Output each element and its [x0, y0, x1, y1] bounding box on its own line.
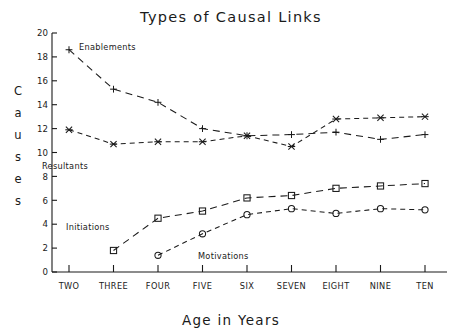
x-tick-label: SIX — [240, 281, 254, 291]
series-label: Resultants — [42, 161, 88, 171]
series-label: Initiations — [66, 222, 110, 232]
y-axis-label-char: u — [14, 128, 21, 142]
y-axis-label-char: s — [15, 150, 21, 164]
x-tick-label: SEVEN — [277, 281, 306, 291]
chart-container: Types of Causal Links Causes 02468101214… — [0, 0, 462, 335]
y-tick-label: 12 — [37, 124, 48, 134]
x-tick-label: THREE — [98, 281, 128, 291]
x-tick-label: FOUR — [146, 281, 170, 291]
y-tick-label: 0 — [43, 267, 48, 277]
series-label: Enablements — [79, 42, 136, 52]
y-tick-label: 10 — [37, 148, 48, 158]
y-tick-label: 20 — [37, 28, 48, 38]
y-tick-label: 18 — [37, 52, 48, 62]
y-tick-label: 8 — [43, 172, 48, 182]
y-tick-label: 2 — [43, 243, 48, 253]
x-tick-label: TWO — [58, 281, 80, 291]
y-tick-label: 4 — [43, 219, 48, 229]
chart-title: Types of Causal Links — [139, 9, 322, 25]
x-tick-label: TEN — [415, 281, 434, 291]
y-axis-label-char: a — [14, 106, 21, 120]
y-axis-label-char: e — [14, 172, 21, 186]
y-axis-label-char: C — [14, 84, 22, 98]
x-tick-label: EIGHT — [322, 281, 350, 291]
x-tick-label: FIVE — [193, 281, 213, 291]
y-axis-label-char: s — [15, 194, 21, 208]
y-tick-label: 6 — [43, 196, 48, 206]
x-tick-label: NINE — [370, 281, 391, 291]
series-label: Motivations — [198, 251, 249, 261]
causal-links-line-chart: Types of Causal Links Causes 02468101214… — [0, 0, 462, 335]
y-tick-label: 14 — [37, 100, 48, 110]
x-axis-title: Age in Years — [182, 312, 280, 328]
y-tick-label: 16 — [37, 76, 48, 86]
